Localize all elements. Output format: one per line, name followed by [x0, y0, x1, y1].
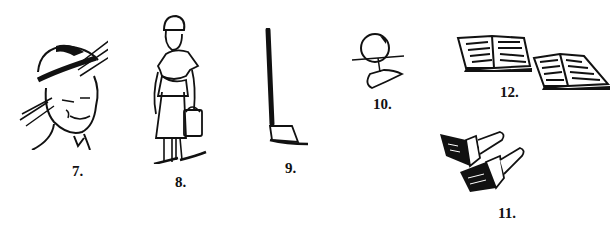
ball-with-splash-illustration: [350, 32, 410, 92]
ball-splash-icon: [350, 32, 410, 92]
figure-number-8: 8.: [175, 174, 186, 191]
open-books-icon: [452, 34, 612, 94]
man-in-straw-hat-illustration: [18, 40, 108, 150]
figure-number-9: 9.: [285, 160, 296, 177]
hoe-illustration: [262, 28, 310, 148]
woman-bucket-icon: [150, 14, 220, 164]
figure-number-7: 7.: [72, 163, 83, 180]
hoe-icon: [262, 28, 310, 148]
open-books-illustration: [452, 34, 612, 94]
figure-number-11: 11.: [498, 205, 516, 222]
figure-number-10: 10.: [373, 96, 392, 113]
paintbrushes-illustration: [440, 130, 540, 200]
woman-with-bucket-illustration: [150, 14, 220, 164]
straw-hat-man-icon: [18, 40, 108, 150]
illustration-sheet: 7. 8. 9.: [0, 0, 615, 226]
paintbrushes-icon: [440, 130, 540, 200]
figure-number-12: 12.: [500, 84, 519, 101]
